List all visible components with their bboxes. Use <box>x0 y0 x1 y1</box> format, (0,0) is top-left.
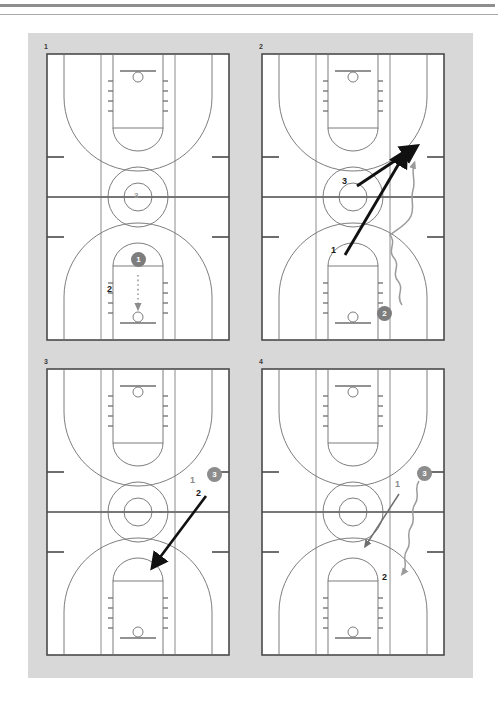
panel-3-court <box>46 368 230 656</box>
figure-board: 1 <box>28 33 473 678</box>
panel-4-number: 4 <box>259 358 263 366</box>
panel-2: 2 <box>259 43 449 343</box>
panel-4-court <box>261 368 445 656</box>
panel-1-court <box>46 53 230 341</box>
panel-3: 3 <box>44 358 234 658</box>
panel-3-number: 3 <box>44 358 48 366</box>
panel-2-number: 2 <box>259 43 263 51</box>
panel-1: 1 <box>44 43 234 343</box>
top-rule-thin <box>0 14 498 15</box>
panel-1-number: 1 <box>44 43 48 51</box>
top-rule-thick <box>0 4 495 7</box>
panel-4: 4 <box>259 358 449 658</box>
panel-2-court <box>261 53 445 341</box>
